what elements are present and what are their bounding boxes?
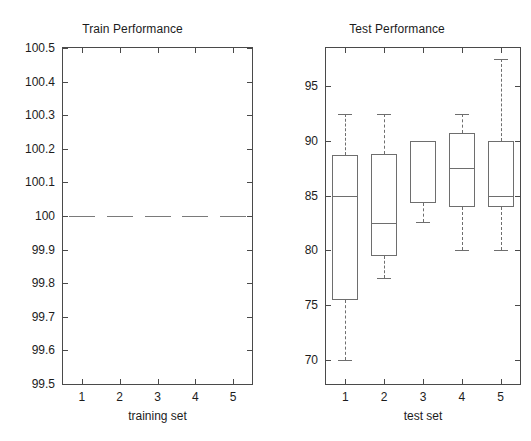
x-tick-label: 3 bbox=[154, 390, 161, 404]
y-tick-mark-right bbox=[515, 141, 520, 142]
x-tick-mark-top bbox=[195, 48, 196, 53]
boxplot-median-line bbox=[332, 196, 358, 197]
y-tick-label: 75 bbox=[305, 298, 318, 312]
y-tick-label: 95 bbox=[305, 79, 318, 93]
y-tick-label: 99.7 bbox=[32, 310, 55, 324]
boxplot-median-line bbox=[449, 168, 475, 169]
y-tick-label: 100.3 bbox=[25, 108, 55, 122]
boxplot-upper-cap bbox=[338, 114, 352, 115]
x-axis-label: test set bbox=[326, 409, 520, 423]
boxplot-box bbox=[449, 133, 475, 206]
y-tick-mark bbox=[326, 196, 331, 197]
y-tick-mark-right bbox=[515, 250, 520, 251]
x-tick-label: 5 bbox=[230, 390, 237, 404]
x-tick-mark-top bbox=[462, 48, 463, 53]
boxplot-upper-cap bbox=[455, 114, 469, 115]
x-tick-mark bbox=[158, 379, 159, 384]
x-tick-mark bbox=[423, 379, 424, 384]
y-tick-mark bbox=[63, 350, 68, 351]
y-tick-label: 99.8 bbox=[32, 276, 55, 290]
y-tick-mark bbox=[63, 384, 68, 385]
y-tick-mark bbox=[63, 182, 68, 183]
y-tick-label: 70 bbox=[305, 353, 318, 367]
y-tick-mark bbox=[63, 115, 68, 116]
boxplot-lower-cap bbox=[416, 222, 430, 223]
y-tick-mark-right bbox=[247, 250, 252, 251]
boxplot-lower-cap bbox=[377, 278, 391, 279]
x-tick-mark bbox=[120, 379, 121, 384]
y-tick-mark-right bbox=[247, 82, 252, 83]
y-tick-mark-right bbox=[515, 305, 520, 306]
test-panel-title: Test Performance bbox=[277, 22, 517, 36]
boxplot-box bbox=[371, 154, 397, 256]
x-tick-mark-top bbox=[158, 48, 159, 53]
y-tick-label: 99.6 bbox=[32, 343, 55, 357]
x-tick-mark-top bbox=[82, 48, 83, 53]
x-tick-label: 5 bbox=[497, 390, 504, 404]
boxplot-degenerate-line bbox=[220, 216, 246, 217]
boxplot-median-line bbox=[488, 196, 514, 197]
x-tick-label: 3 bbox=[420, 390, 427, 404]
y-tick-label: 85 bbox=[305, 189, 318, 203]
x-axis-label: training set bbox=[63, 409, 252, 423]
boxplot-lower-cap bbox=[455, 250, 469, 251]
x-tick-mark-top bbox=[384, 48, 385, 53]
y-tick-mark-right bbox=[247, 384, 252, 385]
boxplot-median-line bbox=[410, 141, 436, 142]
boxplot-upper-whisker bbox=[462, 114, 463, 134]
boxplot-box bbox=[488, 141, 514, 207]
x-tick-mark-top bbox=[501, 48, 502, 53]
y-tick-mark bbox=[63, 216, 68, 217]
boxplot-lower-cap bbox=[494, 250, 508, 251]
y-tick-mark-right bbox=[247, 48, 252, 49]
y-tick-mark-right bbox=[247, 350, 252, 351]
boxplot-lower-whisker bbox=[423, 203, 424, 222]
x-tick-label: 1 bbox=[342, 390, 349, 404]
x-tick-label: 4 bbox=[458, 390, 465, 404]
y-tick-mark-right bbox=[247, 317, 252, 318]
y-tick-mark-right bbox=[515, 360, 520, 361]
y-tick-mark-right bbox=[247, 149, 252, 150]
x-tick-mark bbox=[82, 379, 83, 384]
boxplot-upper-whisker bbox=[501, 59, 502, 141]
x-tick-mark bbox=[384, 379, 385, 384]
x-tick-mark bbox=[233, 379, 234, 384]
y-tick-label: 100.2 bbox=[25, 142, 55, 156]
x-tick-mark-top bbox=[120, 48, 121, 53]
x-tick-mark-top bbox=[233, 48, 234, 53]
y-tick-mark-right bbox=[247, 216, 252, 217]
boxplot-lower-whisker bbox=[501, 207, 502, 251]
boxplot-degenerate-line bbox=[145, 216, 171, 217]
y-tick-mark bbox=[326, 86, 331, 87]
boxplot-figure: Train Performance 99.599.699.799.899.910… bbox=[0, 0, 531, 441]
y-tick-mark bbox=[63, 250, 68, 251]
boxplot-box bbox=[410, 141, 436, 203]
panel-train-performance: Train Performance 99.599.699.799.899.910… bbox=[0, 0, 265, 441]
y-tick-mark-right bbox=[247, 115, 252, 116]
x-tick-mark bbox=[462, 379, 463, 384]
y-tick-label: 100.4 bbox=[25, 75, 55, 89]
test-axes: 70758085909512345test set bbox=[325, 47, 521, 385]
y-tick-label: 99.9 bbox=[32, 243, 55, 257]
y-tick-mark-right bbox=[247, 182, 252, 183]
boxplot-lower-whisker bbox=[462, 207, 463, 251]
y-tick-label: 100.5 bbox=[25, 41, 55, 55]
y-tick-mark-right bbox=[515, 86, 520, 87]
y-tick-mark bbox=[63, 48, 68, 49]
boxplot-upper-whisker bbox=[384, 114, 385, 154]
x-tick-mark bbox=[195, 379, 196, 384]
y-tick-mark bbox=[326, 305, 331, 306]
x-tick-label: 4 bbox=[192, 390, 199, 404]
y-tick-label: 100 bbox=[35, 209, 55, 223]
x-tick-mark-top bbox=[423, 48, 424, 53]
y-tick-label: 90 bbox=[305, 134, 318, 148]
y-tick-mark bbox=[63, 317, 68, 318]
x-tick-label: 2 bbox=[381, 390, 388, 404]
boxplot-degenerate-line bbox=[182, 216, 208, 217]
x-tick-label: 1 bbox=[79, 390, 86, 404]
y-tick-label: 80 bbox=[305, 243, 318, 257]
boxplot-lower-cap bbox=[338, 360, 352, 361]
boxplot-degenerate-line bbox=[107, 216, 133, 217]
y-tick-label: 99.5 bbox=[32, 377, 55, 391]
panel-test-performance: Test Performance 70758085909512345test s… bbox=[265, 0, 531, 441]
